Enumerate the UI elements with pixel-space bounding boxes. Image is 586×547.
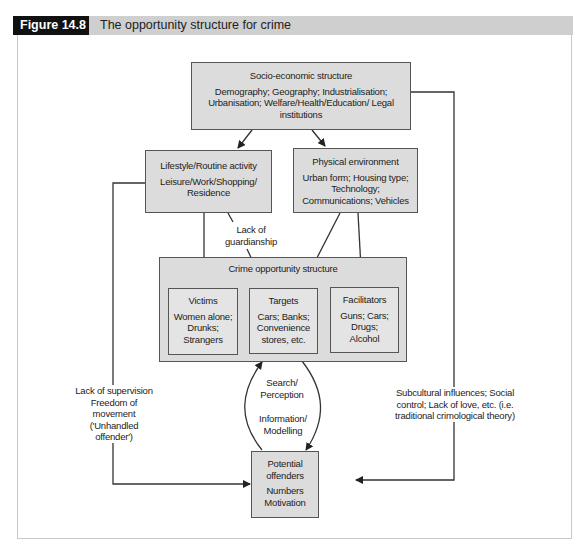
physical-environment-box: Physical environment Urban form; Housing… [293, 148, 418, 213]
label-lack-of-guardianship: Lack of guardianship [225, 224, 277, 247]
socio-economic-body: Demography; Geography; Industrialisation… [192, 86, 410, 121]
label-information-modelling: Information/ Modelling [255, 413, 311, 436]
lifestyle-box: Lifestyle/Routine activity Leisure/Work/… [145, 150, 272, 213]
physical-environment-title: Physical environment [294, 156, 417, 168]
arrow-guardianship-to-targets [228, 213, 233, 222]
label-lack-of-supervision: Lack of supervision Freedom of movement … [70, 385, 158, 443]
arrow-socio-to-lifestyle [238, 130, 252, 148]
physical-environment-body: Urban form; Housing type; Technology; Co… [294, 172, 417, 207]
crime-opportunity-structure-title: Crime opportunity structure [160, 263, 406, 275]
lifestyle-body: Leisure/Work/Shopping/ Residence [146, 176, 271, 199]
label-search-perception: Search/ Perception [258, 377, 306, 400]
socio-economic-title: Socio-economic structure [192, 70, 410, 82]
arrow-offenders-to-structure [245, 362, 262, 450]
lifestyle-title: Lifestyle/Routine activity [146, 160, 271, 172]
victims-body: Women alone; Drunks; Strangers [169, 311, 237, 346]
facilitators-box: Facilitators Guns; Cars; Drugs; Alcohol [330, 287, 399, 353]
arrow-socio-to-physical [312, 130, 325, 146]
targets-body: Cars; Banks; Convenience stores, etc. [250, 311, 317, 346]
facilitators-body: Guns; Cars; Drugs; Alcohol [331, 310, 398, 345]
label-subcultural-influences: Subcultural influences; Social control; … [392, 387, 518, 422]
targets-title: Targets [250, 295, 317, 307]
potential-offenders-body: Numbers Motivation [252, 485, 318, 508]
facilitators-title: Facilitators [331, 294, 398, 306]
victims-box: Victims Women alone; Drunks; Strangers [168, 288, 238, 355]
potential-offenders-box: Potential offenders Numbers Motivation [251, 451, 319, 518]
arrow-structure-to-offenders [302, 361, 321, 450]
targets-box: Targets Cars; Banks; Convenience stores,… [249, 288, 318, 354]
socio-economic-box: Socio-economic structure Demography; Geo… [191, 62, 411, 130]
potential-offenders-title: Potential offenders [252, 458, 318, 481]
victims-title: Victims [169, 295, 237, 307]
